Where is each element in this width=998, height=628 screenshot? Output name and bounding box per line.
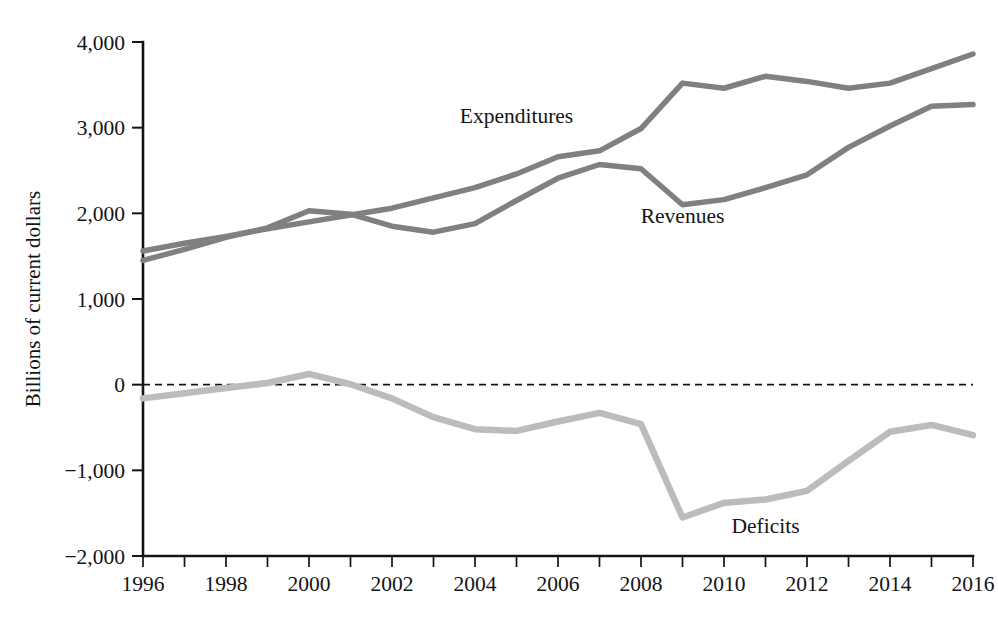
y-tick-label--1000: −1,000 xyxy=(64,459,125,483)
x-tick-label-2012: 2012 xyxy=(786,572,829,596)
x-tick-label-2014: 2014 xyxy=(869,572,912,596)
x-axis-tick-labels: 1996199820002002200420062008201020122014… xyxy=(122,572,995,596)
y-tick-label-3000: 3,000 xyxy=(77,116,125,140)
y-axis-tick-labels: −2,000−1,00001,0002,0003,0004,000 xyxy=(64,31,125,569)
x-tick-label-1996: 1996 xyxy=(122,572,165,596)
x-tick-label-2002: 2002 xyxy=(371,572,414,596)
y-axis-title: Billions of current dollars xyxy=(21,191,45,407)
x-tick-label-2008: 2008 xyxy=(620,572,663,596)
x-axis-ticks xyxy=(143,556,973,567)
series-line-expenditures xyxy=(143,54,973,251)
x-tick-label-1998: 1998 xyxy=(205,572,248,596)
y-axis-group: −2,000−1,00001,0002,0003,0004,000 Billio… xyxy=(21,31,143,569)
series-label-expenditures: Expenditures xyxy=(460,104,573,128)
series-label-revenues: Revenues xyxy=(641,204,725,228)
x-tick-label-2004: 2004 xyxy=(454,572,497,596)
chart-figure: −2,000−1,00001,0002,0003,0004,000 Billio… xyxy=(0,0,998,628)
y-tick-label--2000: −2,000 xyxy=(64,545,125,569)
x-tick-label-2010: 2010 xyxy=(703,572,746,596)
series-line-revenues xyxy=(143,105,973,261)
x-axis-group: 1996199820002002200420062008201020122014… xyxy=(122,556,995,596)
y-tick-label-0: 0 xyxy=(114,373,125,397)
series-line-deficits xyxy=(143,374,973,517)
y-axis-ticks xyxy=(132,42,143,556)
y-tick-label-1000: 1,000 xyxy=(77,288,125,312)
series-label-deficits: Deficits xyxy=(731,514,799,538)
x-tick-label-2016: 2016 xyxy=(952,572,995,596)
x-tick-label-2006: 2006 xyxy=(537,572,580,596)
y-tick-label-2000: 2,000 xyxy=(77,202,125,226)
x-tick-label-2000: 2000 xyxy=(288,572,331,596)
chart-svg: −2,000−1,00001,0002,0003,0004,000 Billio… xyxy=(0,0,998,628)
y-tick-label-4000: 4,000 xyxy=(77,31,125,55)
